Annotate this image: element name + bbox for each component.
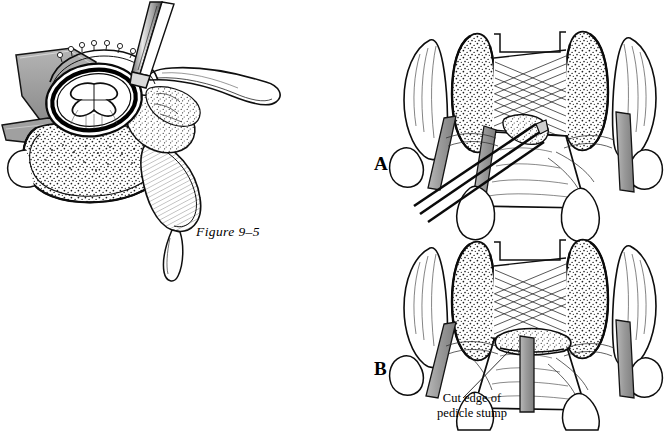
panel-label-a: A [374, 153, 388, 175]
figure-container: Figure 9–5 A B Cut edge of pedicle stump [0, 0, 665, 432]
spinous-process [141, 140, 201, 281]
lamina-notch-b [494, 240, 566, 260]
caudal-process-right-a [561, 188, 599, 241]
callout-line-2: pedicle stump [398, 406, 546, 421]
callout-line-1: Cut edge of [398, 391, 546, 406]
illustration-artwork [0, 0, 665, 432]
figure-caption: Figure 9–5 [196, 224, 260, 240]
lamina-notch-a [494, 32, 566, 52]
panel-a-artwork [390, 32, 663, 242]
caudal-process-right-b [563, 394, 600, 430]
panel-label-b: B [374, 358, 387, 380]
inferior-facet-left-a [390, 148, 424, 187]
caudal-process-left-a [457, 186, 495, 239]
inferior-facet-left-b [390, 356, 424, 395]
cut-edge-pedicle-stump-callout: Cut edge of pedicle stump [398, 391, 546, 421]
